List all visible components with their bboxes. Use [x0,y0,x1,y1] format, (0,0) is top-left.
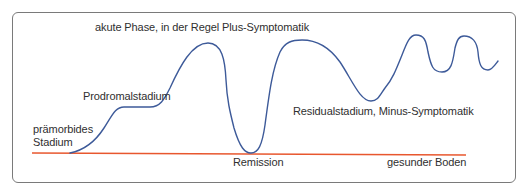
prodromal-stage-label: Prodromalstadium [83,90,171,103]
premorbid-stage-label-line2: Stadium [33,136,73,149]
remission-label: Remission [233,156,283,169]
residual-stage-label: Residualstadium, Minus-Symptomatik [293,105,474,118]
premorbid-stage-label-line1: prämorbides [33,123,93,136]
healthy-ground-label: gesunder Boden [387,156,466,169]
acute-phase-label: akute Phase, in der Regel Plus-Symptomat… [95,21,309,34]
